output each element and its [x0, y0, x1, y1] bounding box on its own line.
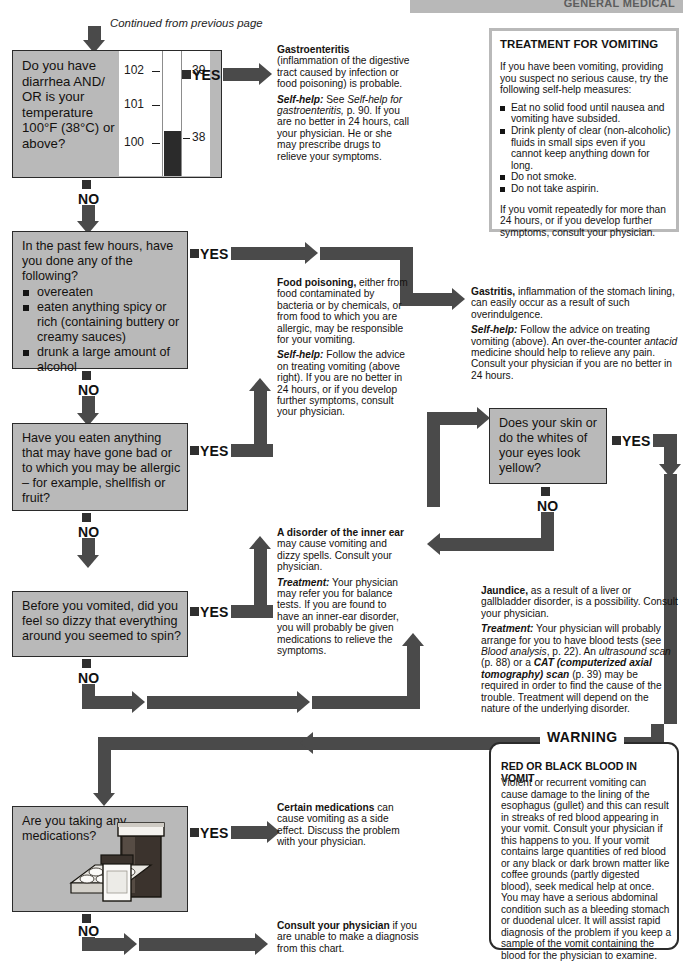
- yes-marker-3: [190, 446, 199, 455]
- question-box-3[interactable]: Have you eaten anything that may have go…: [12, 423, 188, 511]
- no-marker-5: [541, 487, 550, 496]
- question-5-text: Does your skin or do the whites of your …: [499, 416, 604, 476]
- list-item: Eat no solid food until nausea and vomit…: [500, 102, 674, 125]
- arrow-q5-no-tip: [427, 533, 440, 555]
- no-label-4: NO: [78, 671, 99, 685]
- arrow-q1-yes-tip: [259, 63, 272, 85]
- arrow-q2-yes-tip-b: [452, 288, 465, 310]
- list-item: overeaten: [22, 285, 182, 300]
- question-4-text: Before you vomited, did you feel so dizz…: [22, 599, 182, 644]
- jaundice-body-2c: (p. 88) or a: [481, 657, 534, 668]
- arrow-q1-yes-shaft: [223, 68, 259, 81]
- warning-panel: RED OR BLACK BLOOD IN VOMIT Violent or r…: [489, 742, 679, 950]
- inner-ear-body-2: Your physician may refer you for balance…: [277, 577, 399, 656]
- arrow-return-tip-down: [93, 793, 115, 806]
- yes-marker-2: [190, 249, 199, 258]
- thermometer-mercury: [164, 131, 181, 176]
- outcome-gastroenteritis: Gastroenteritis (inflammation of the dig…: [277, 44, 412, 162]
- outcome-inner-ear: A disorder of the inner ear may cause vo…: [277, 527, 410, 656]
- question-box-6[interactable]: Are you taking any medications?: [12, 806, 188, 912]
- no-label-5: NO: [537, 499, 558, 513]
- treatment-intro: If you have been vomiting, providing you…: [500, 61, 674, 96]
- yes-label-2: YES: [200, 247, 229, 261]
- treatment-outro: If you vomit repeatedly for more than 24…: [500, 204, 674, 239]
- gastroenteritis-title: Gastroenteritis: [277, 44, 349, 55]
- treatment-panel-body: If you have been vomiting, providing you…: [500, 61, 674, 238]
- question-2-text: In the past few hours, have you done any…: [22, 239, 182, 375]
- warning-body-1: Violent or recurrent vomiting can cause …: [501, 777, 669, 892]
- gastritis-body-2b: medicine should help to relieve any pain…: [471, 347, 672, 381]
- outcome-food-poisoning: Food poisoning, either from food contami…: [277, 277, 410, 418]
- warning-panel-body: Violent or recurrent vomiting can cause …: [501, 777, 673, 961]
- thermo-f-101: 101: [124, 97, 144, 111]
- arrow-return-tip-mid: [300, 732, 313, 754]
- arrow-return-shaft-v-left: [98, 737, 111, 793]
- arrow-q2-yes-shaft-a: [231, 247, 305, 260]
- thermo-tick-c38: [183, 138, 190, 139]
- warning-label: WARNING: [540, 729, 624, 745]
- no-marker-3: [82, 513, 91, 522]
- food-poisoning-title: Food poisoning,: [277, 277, 356, 288]
- jaundice-title: Jaundice,: [481, 585, 528, 596]
- jaundice-treatment-label: Treatment:: [481, 623, 533, 634]
- yes-label-6: YES: [200, 826, 229, 840]
- thermo-tick-f102: [152, 71, 160, 72]
- gastroenteritis-body-2a: See: [323, 94, 347, 105]
- inner-ear-title: A disorder of the inner ear: [277, 527, 404, 538]
- arrow-q5-yes-shaft-v: [664, 434, 677, 464]
- arrow-q2-no-shaft: [82, 396, 95, 413]
- no-marker-6: [82, 914, 91, 923]
- arrow-q6-yes-shaft: [231, 826, 267, 839]
- treatment-panel: TREATMENT FOR VOMITING If you have been …: [489, 28, 679, 232]
- warning-emphasis: seek medical help at once: [535, 881, 652, 892]
- arrow-q6-no-shaft-h2: [139, 938, 255, 951]
- jaundice-body-2b: , p. 22). An: [547, 646, 599, 657]
- question-box-2[interactable]: In the past few hours, have you done any…: [12, 231, 188, 369]
- outcome-consult: Consult your physician if you are unable…: [277, 920, 427, 954]
- arrow-q4-no-tip-a: [132, 691, 145, 713]
- arrow-q4-no-shaft-h2: [147, 696, 297, 709]
- arrow-q1-no-shaft: [82, 205, 95, 221]
- no-marker-4: [82, 659, 91, 668]
- no-label-2: NO: [78, 383, 99, 397]
- yes-label-4: YES: [200, 605, 229, 619]
- no-label-6: NO: [78, 924, 99, 938]
- list-item: Drink plenty of clear (non-alcoholic) fl…: [500, 125, 674, 171]
- page-title: GENERAL MEDICAL: [410, 0, 675, 11]
- no-marker-2: [82, 371, 91, 380]
- question-2-bullets: overeaten eaten anything spicy or rich (…: [22, 285, 182, 375]
- arrow-to-q5-shaft-v: [427, 412, 440, 507]
- jaundice-italic-b: ultrasound scan: [599, 646, 671, 657]
- list-item: eaten anything spicy or rich (containing…: [22, 300, 182, 345]
- thermo-tick-f101: [152, 105, 160, 106]
- arrow-q4-yes-shaft-b: [254, 549, 267, 612]
- arrow-q3-no-shaft: [82, 538, 95, 555]
- thermo-tick-f100: [152, 143, 160, 144]
- question-box-5[interactable]: Does your skin or do the whites of your …: [489, 408, 607, 484]
- arrow-q3-no-tip: [77, 555, 99, 568]
- arrow-q3-yes-shaft-b: [254, 391, 267, 451]
- outcome-medications: Certain medications can cause vomiting a…: [277, 802, 417, 848]
- no-label-1: NO: [78, 192, 99, 206]
- yes-marker-4: [190, 607, 199, 616]
- arrow-q6-no-tip-a: [124, 933, 137, 955]
- gastroenteritis-body-1: (inflammation of the digestive tract cau…: [277, 55, 410, 89]
- question-box-4[interactable]: Before you vomited, did you feel so dizz…: [12, 591, 188, 657]
- arrow-q4-yes-tip: [249, 536, 271, 549]
- list-item: Do not smoke.: [500, 171, 674, 183]
- food-poisoning-selfhelp-label: Self-help:: [277, 349, 323, 360]
- arrow-q3-yes-tip: [249, 378, 271, 391]
- arrow-entry-shaft: [88, 26, 101, 40]
- arrow-q4-no-shaft-h3: [312, 696, 420, 709]
- arrow-q4-no-shaft-h1: [82, 696, 132, 709]
- treatment-measures-list: Eat no solid food until nausea and vomit…: [500, 102, 674, 195]
- medications-title: Certain medications: [277, 802, 374, 813]
- no-label-3: NO: [78, 525, 99, 539]
- arrow-q4-no-tip-b: [297, 691, 310, 713]
- gastritis-title: Gastritis,: [471, 286, 515, 297]
- continued-note: Continued from previous page: [110, 17, 263, 29]
- warning-body-2: . You may have a serious abdominal condi…: [501, 881, 671, 961]
- outcome-gastritis: Gastritis, inflammation of the stomach l…: [471, 286, 678, 381]
- gastritis-selfhelp-label: Self-help:: [471, 324, 517, 335]
